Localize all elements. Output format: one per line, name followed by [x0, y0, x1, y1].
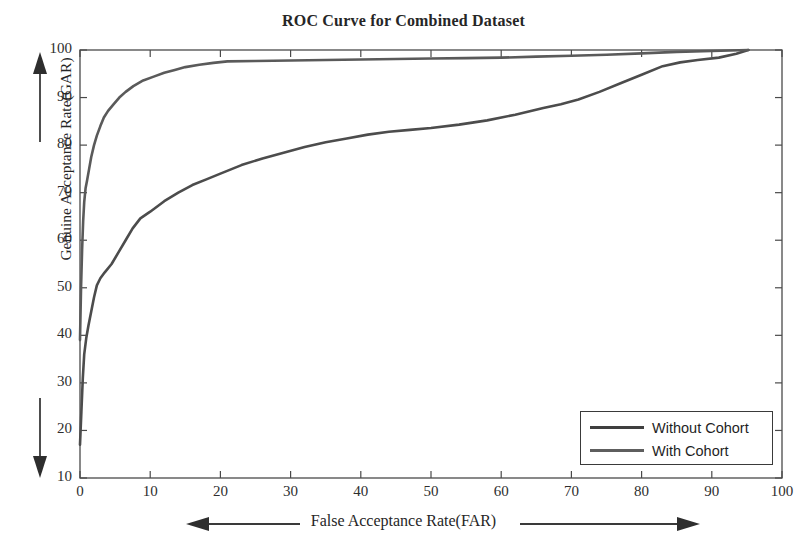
- x-tick-label: 10: [130, 483, 170, 500]
- legend-label: Without Cohort: [652, 420, 749, 436]
- legend-item[interactable]: Without Cohort: [581, 416, 772, 439]
- roc-chart-figure: ROC Curve for Combined Dataset 102030405…: [0, 0, 807, 550]
- legend-item[interactable]: With Cohort: [581, 439, 772, 462]
- legend: Without Cohort With Cohort: [580, 411, 773, 465]
- x-tick-label: 60: [481, 483, 521, 500]
- legend-swatch-without-cohort: [590, 426, 644, 429]
- y-tick-label: 30: [38, 373, 72, 390]
- y-tick-label: 20: [38, 420, 72, 437]
- x-axis-label: False Acceptance Rate(FAR): [0, 512, 807, 530]
- x-tick-label: 0: [60, 483, 100, 500]
- y-axis-arrow-annotation: [33, 52, 47, 478]
- x-tick-label: 20: [200, 483, 240, 500]
- x-tick-label: 90: [692, 483, 732, 500]
- y-axis-label: Genuine Acceptance Rate(GAR): [57, 9, 75, 309]
- chart-canvas: [0, 0, 807, 550]
- x-tick-label: 70: [551, 483, 591, 500]
- x-tick-label: 80: [622, 483, 662, 500]
- y-tick-label: 40: [38, 325, 72, 342]
- x-tick-label: 40: [341, 483, 381, 500]
- x-tick-label: 50: [411, 483, 451, 500]
- legend-label: With Cohort: [652, 443, 729, 459]
- x-tick-label: 30: [271, 483, 311, 500]
- x-tick-label: 100: [762, 483, 802, 500]
- legend-swatch-with-cohort: [590, 449, 644, 452]
